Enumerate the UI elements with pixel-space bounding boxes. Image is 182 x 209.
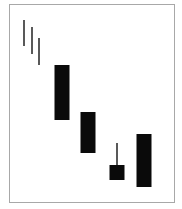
candle-6	[110, 143, 125, 180]
candle-5	[81, 112, 96, 153]
candle-7	[137, 134, 152, 187]
candle-4	[55, 65, 70, 120]
candlestick-chart	[0, 0, 182, 209]
